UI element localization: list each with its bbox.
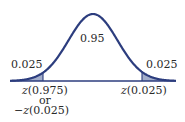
left-alt-critical-value-label: −z(0.025) — [14, 105, 69, 117]
left-tail-area-label: 0.025 — [11, 59, 43, 71]
minus-sign: − — [14, 104, 23, 117]
right-critical-value-label: z(0.025) — [121, 85, 167, 97]
right-critical-arg: (0.025) — [127, 84, 167, 97]
center-area-label: 0.95 — [80, 33, 105, 45]
left-alt-critical-arg: (0.025) — [29, 104, 69, 117]
right-tail-area-label: 0.025 — [146, 59, 178, 71]
normal-distribution-diagram: 0.95 0.025 0.025 z(0.975) or −z(0.025) z… — [0, 0, 185, 122]
